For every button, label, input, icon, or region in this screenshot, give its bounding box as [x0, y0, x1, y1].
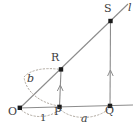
- line-label-l: l: [128, 2, 132, 13]
- point-O-dot: [18, 106, 22, 110]
- segment-Q-S-line: [110, 22, 111, 106]
- arc-label-a: a: [81, 113, 88, 124]
- point-label-O: O: [8, 106, 17, 117]
- length-label-unit: 1: [40, 113, 46, 123]
- point-label-P: P: [54, 106, 61, 117]
- axis-horizontal-line: [18, 105, 133, 108]
- point-R-dot: [59, 67, 63, 71]
- diagram-canvas: [0, 0, 136, 130]
- point-label-S: S: [104, 3, 112, 14]
- arc-label-b: b: [27, 73, 34, 84]
- segment-P-R-line: [60, 70, 62, 107]
- point-label-R: R: [51, 52, 59, 63]
- point-label-Q: Q: [105, 105, 114, 116]
- point-S-dot: [108, 19, 112, 23]
- geometry-diagram: O P Q R S b 1 a l: [0, 0, 136, 130]
